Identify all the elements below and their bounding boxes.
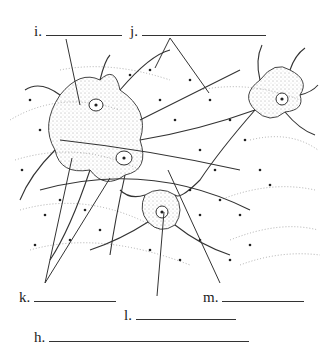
label-i-blank[interactable] <box>46 34 122 36</box>
label-h-blank[interactable] <box>49 340 249 342</box>
neuron-1 <box>49 74 143 181</box>
label-j-text: j. <box>130 23 138 39</box>
neuron-2 <box>249 67 304 118</box>
label-i-text: i. <box>34 23 42 39</box>
label-h: h. <box>34 329 249 345</box>
label-l-text: l. <box>124 307 132 323</box>
label-m-text: m. <box>203 289 218 305</box>
label-k-blank[interactable] <box>34 300 116 302</box>
neuron-bodies <box>49 67 304 230</box>
label-k: k. <box>19 289 116 305</box>
label-l-blank[interactable] <box>136 318 236 320</box>
label-m: m. <box>203 289 304 305</box>
label-i: i. <box>34 23 122 39</box>
label-j: j. <box>130 23 266 39</box>
label-m-blank[interactable] <box>222 300 304 302</box>
label-j-blank[interactable] <box>142 34 266 36</box>
label-l: l. <box>124 307 236 323</box>
label-k-text: k. <box>19 289 30 305</box>
label-h-text: h. <box>34 329 45 345</box>
